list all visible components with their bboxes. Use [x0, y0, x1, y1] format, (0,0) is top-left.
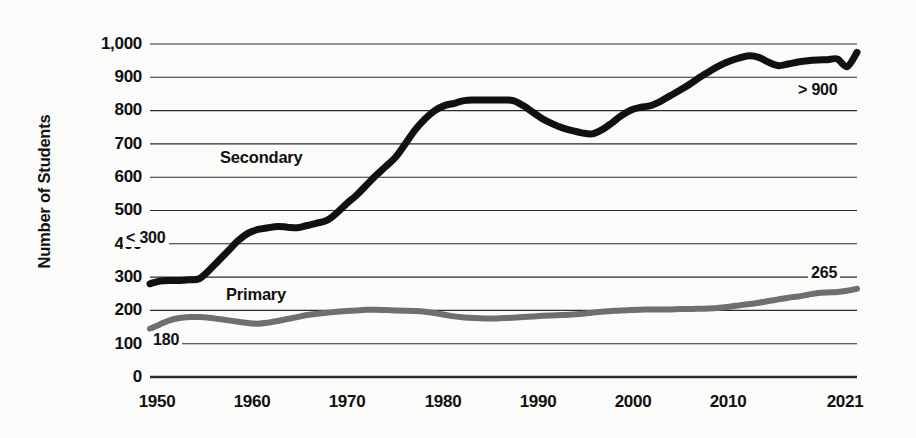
x-tick-1950: 1950 [112, 392, 202, 412]
plot-area [0, 0, 916, 438]
annotation-secondary-start: < 300 [123, 229, 169, 247]
series-line-secondary [150, 52, 857, 283]
x-tick-2010: 2010 [683, 392, 773, 412]
x-tick-2021: 2021 [800, 392, 890, 412]
annotation-primary-start: 180 [150, 331, 182, 349]
chart-container: Number of Students 1,000 900 800 700 600… [0, 0, 916, 438]
x-tick-1990: 1990 [493, 392, 583, 412]
annotation-secondary-end: > 900 [795, 81, 841, 99]
x-tick-2000: 2000 [588, 392, 678, 412]
x-tick-1970: 1970 [302, 392, 392, 412]
annotation-primary-end: 265 [808, 264, 840, 282]
x-tick-1980: 1980 [398, 392, 488, 412]
gridlines [150, 44, 857, 377]
series-label-primary: Primary [222, 285, 290, 304]
series-label-secondary: Secondary [216, 148, 307, 167]
x-tick-1960: 1960 [207, 392, 297, 412]
